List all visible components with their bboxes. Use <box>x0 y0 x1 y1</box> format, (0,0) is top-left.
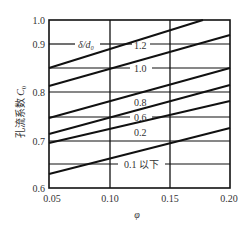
series-label-1.0: 1.0 <box>134 63 147 74</box>
y-tick-1.0: 1.0 <box>33 15 46 26</box>
y-axis-title-subscript: 0 <box>20 85 28 89</box>
x-axis-title: φ <box>134 209 140 220</box>
y-axis-title-text: 孔流系数 <box>14 96 26 139</box>
svg-text:孔流系数 C0: 孔流系数 C0 <box>14 85 28 138</box>
series-label-0.1: 0.1 以下 <box>124 159 159 170</box>
y-axis-title: 孔流系数 C0 <box>14 85 28 138</box>
x-tick-0.20: 0.20 <box>220 193 238 204</box>
y-tick-0.8: 0.8 <box>33 87 46 98</box>
series-label-0.8: 0.8 <box>134 97 147 108</box>
x-tick-0.05: 0.05 <box>43 193 61 204</box>
series-label-1.2: 1.2 <box>134 40 147 51</box>
legend-title: δ/d₀ <box>78 39 94 50</box>
x-tick-0.10: 0.10 <box>101 193 119 204</box>
chart: δ/d₀ 1.2 1.0 0.8 0.6 0.2 0.1 以下 1.0 0.9 … <box>0 0 252 227</box>
series-label-0.2: 0.2 <box>134 127 147 138</box>
x-tick-0.15: 0.15 <box>161 193 179 204</box>
y-tick-0.9: 0.9 <box>33 39 46 50</box>
series-label-0.6: 0.6 <box>134 112 147 123</box>
y-tick-0.7: 0.7 <box>33 136 46 147</box>
